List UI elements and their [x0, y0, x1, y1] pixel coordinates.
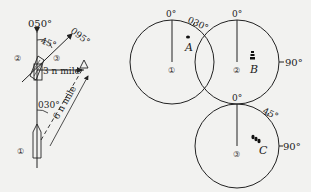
position-label-1: ① — [17, 147, 24, 156]
bearing-label: 030° — [186, 15, 210, 33]
target-label: B — [249, 63, 258, 76]
target-echo-b — [250, 51, 255, 60]
bearing-label-030: 030° — [38, 100, 60, 110]
angle-label: 45° — [261, 106, 280, 122]
north-label: 0° — [232, 9, 242, 19]
target-label: C — [259, 144, 268, 157]
beam-label: 90° — [283, 141, 301, 152]
position-label: ② — [233, 66, 240, 75]
radar-scope-2: 0° 90° B ② — [195, 9, 303, 104]
target-echo-a — [186, 35, 190, 38]
maneuver-diagram: 050° 095° 45° ② ③ 3 n mile 6 n mile 030° — [14, 18, 92, 168]
angle-arc-030 — [37, 110, 48, 113]
position-label-3: ③ — [53, 54, 60, 63]
north-label: 0° — [232, 93, 242, 103]
position-label: ③ — [233, 150, 240, 159]
diagram-svg: 050° 095° 45° ② ③ 3 n mile 6 n mile 030° — [0, 0, 311, 192]
heading-label: 050° — [28, 18, 52, 29]
position-label-2: ② — [14, 54, 21, 63]
diagram: 050° 095° 45° ② ③ 3 n mile 6 n mile 030° — [0, 0, 311, 192]
north-label: 0° — [166, 9, 176, 19]
radar-scope-3: 0° 45° 90° C ③ — [195, 93, 301, 188]
distance-label-3nm: 3 n mile — [43, 66, 80, 76]
target-label: A — [184, 41, 193, 54]
angle-label-45: 45° — [39, 35, 57, 50]
target-ship-icon — [80, 60, 88, 68]
course-label: 095° — [69, 26, 92, 47]
position-label: ① — [168, 66, 175, 75]
target-echo-c — [251, 135, 260, 143]
radar-scope-1: 0° 030° A ① — [130, 9, 214, 104]
beam-label: 90° — [285, 57, 303, 68]
